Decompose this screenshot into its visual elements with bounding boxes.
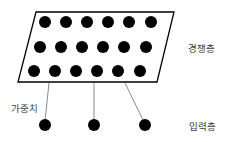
competitive-layer-label: 경쟁층 [188, 44, 215, 54]
input-layer [39, 119, 151, 131]
competitive-node [123, 16, 135, 28]
input-node [88, 119, 100, 131]
competitive-node [70, 65, 82, 77]
input-layer-label: 입력층 [189, 122, 216, 132]
competitive-node [102, 16, 114, 28]
competitive-node [145, 16, 157, 28]
competitive-node [91, 65, 103, 77]
competitive-node [28, 65, 40, 77]
competitive-node [118, 41, 130, 53]
competitive-node [134, 65, 146, 77]
input-node [139, 119, 151, 131]
competitive-node [55, 41, 67, 53]
input-node [39, 119, 51, 131]
competitive-node [81, 16, 93, 28]
competitive-node [49, 65, 61, 77]
weight-line [45, 83, 49, 121]
competitive-node [140, 41, 152, 53]
competitive-node [60, 16, 72, 28]
competitive-node [97, 41, 109, 53]
weights-label: 가중치 [11, 104, 38, 114]
weight-connections [45, 83, 143, 121]
som-diagram: 경쟁층 가중치 입력층 [0, 0, 232, 142]
competitive-node [76, 41, 88, 53]
weight-line [125, 83, 143, 120]
competitive-node [112, 65, 124, 77]
competitive-node [34, 41, 46, 53]
competitive-node [39, 16, 51, 28]
